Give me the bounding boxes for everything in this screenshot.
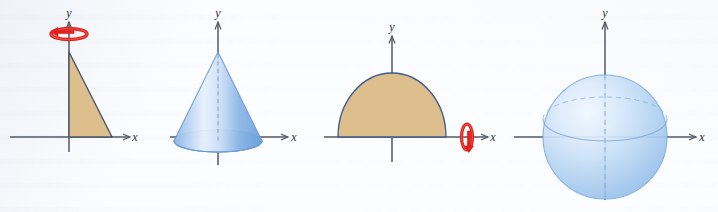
x-axis-label: x <box>290 130 297 144</box>
y-axis-label: y <box>388 20 395 34</box>
figure-strip: x y <box>0 0 718 212</box>
cone-solid <box>174 52 262 152</box>
y-axis-label: y <box>601 6 608 20</box>
y-axis-label: y <box>214 6 221 20</box>
panel-sphere-solid: x y <box>500 0 718 212</box>
y-axis-label: y <box>65 6 72 20</box>
x-axis-label: x <box>698 130 705 144</box>
x-axis-label: x <box>489 130 496 144</box>
sphere-solid <box>543 75 667 199</box>
rotation-arrow-vertical <box>462 124 474 153</box>
panel-cone-solid: x y <box>160 0 320 212</box>
x-axis-label: x <box>131 130 138 144</box>
panel-semicircle-region: x y <box>320 0 500 212</box>
triangle-region <box>69 52 112 137</box>
semicircle-region <box>338 73 446 137</box>
panel-triangle-region: x y <box>0 0 160 212</box>
